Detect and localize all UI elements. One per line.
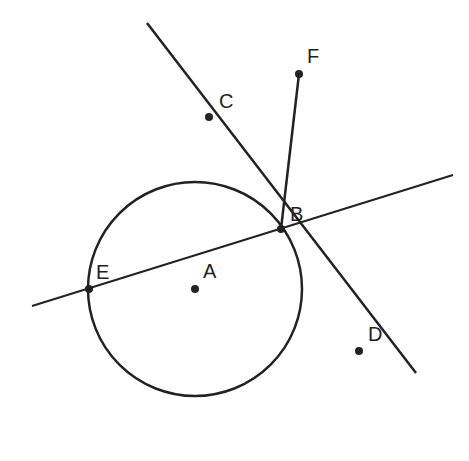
label-a: A: [203, 260, 217, 282]
point-b: [277, 225, 285, 233]
point-d: [355, 347, 363, 355]
point-e: [85, 285, 93, 293]
points-layer: ABCDEF: [85, 45, 382, 355]
point-f: [295, 70, 303, 78]
label-e: E: [96, 261, 109, 283]
point-a: [191, 285, 199, 293]
label-f: F: [307, 45, 319, 67]
label-b: B: [290, 203, 303, 225]
geometry-diagram: ABCDEF: [0, 0, 469, 461]
label-d: D: [368, 323, 382, 345]
label-c: C: [219, 90, 233, 112]
point-c: [205, 113, 213, 121]
line-EB: [32, 175, 453, 306]
line-CD: [147, 23, 416, 373]
